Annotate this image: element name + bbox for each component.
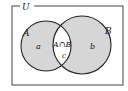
set-a-label: A [22,28,30,38]
region-c-label: c [62,52,66,60]
set-b-label: B [104,26,112,36]
intersection-label: A∩B [52,40,71,49]
region-b-label: b [90,42,95,51]
region-a-label: a [36,42,41,51]
venn-diagram: U A B a b A∩B c [0,0,128,91]
universe-label: U [22,2,30,12]
